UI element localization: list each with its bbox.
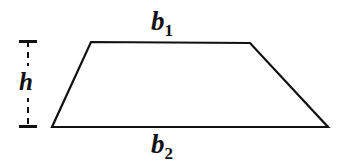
top-base-label-subscript: 1	[165, 21, 174, 40]
top-base-label-base: b	[151, 6, 165, 36]
figure-canvas: b1 b2 h	[0, 0, 344, 165]
bottom-base-label: b2	[151, 131, 173, 158]
bottom-base-label-base: b	[151, 129, 165, 159]
trapezoid-shape	[52, 42, 328, 127]
height-label-base: h	[19, 68, 33, 95]
height-label: h	[19, 69, 33, 94]
top-base-label: b1	[151, 8, 173, 35]
bottom-base-label-subscript: 2	[165, 144, 174, 163]
